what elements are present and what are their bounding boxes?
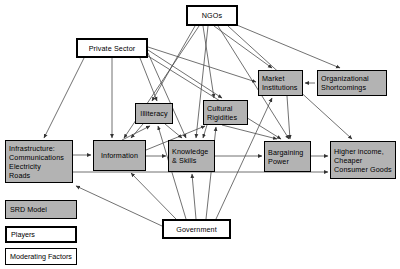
node-label-higher: Higher income, Cheaper Consumer Goods xyxy=(334,147,395,174)
diagram-canvas: NGOsPrivate SectorGovernmentMarket Insti… xyxy=(0,0,400,269)
edge-private-to-illiteracy xyxy=(140,58,157,101)
edge-private-to-cultural xyxy=(148,50,222,98)
edge-illiteracy-to-knowledge xyxy=(165,124,182,138)
node-private[interactable]: Private Sector xyxy=(76,38,148,58)
node-infrastructure[interactable]: Infrastructure: Communications Electrici… xyxy=(5,140,73,183)
edge-information-to-illiteracy xyxy=(122,126,150,140)
edge-ngos-to-market xyxy=(214,26,272,68)
node-bargaining[interactable]: Bargaining Power xyxy=(264,141,311,172)
node-label-market: Market Institutions xyxy=(262,74,302,92)
node-knowledge[interactable]: Knowledge & Skills xyxy=(168,140,215,172)
node-label-government: Government xyxy=(166,225,227,234)
legend-moderating-label: Moderating Factors xyxy=(10,252,72,261)
node-label-cultural: Cultural Rigidities xyxy=(207,104,247,122)
edge-private-to-market xyxy=(148,47,256,82)
edge-government-to-information xyxy=(131,173,176,219)
node-illiteracy[interactable]: Illiteracy xyxy=(135,103,173,124)
legend-moderating: Moderating Factors xyxy=(5,248,77,265)
legend-srd-label: SRD Model xyxy=(10,205,47,214)
legend-srd: SRD Model xyxy=(5,200,77,219)
node-higher[interactable]: Higher income, Cheaper Consumer Goods xyxy=(330,141,396,179)
edge-market-to-bargaining xyxy=(287,96,290,139)
node-label-information: Information xyxy=(96,151,143,160)
edge-illiteracy-to-information xyxy=(131,124,143,138)
node-organizational[interactable]: Organizational Shortcomings xyxy=(317,70,387,96)
legend-players: Players xyxy=(5,226,77,243)
node-label-organizational: Organizational Shortcomings xyxy=(321,74,386,92)
node-government[interactable]: Government xyxy=(162,219,231,239)
node-label-ngos: NGOs xyxy=(190,11,234,20)
edge-private-to-infrastructure xyxy=(44,58,84,138)
node-information[interactable]: Information xyxy=(93,140,146,171)
node-ngos[interactable]: NGOs xyxy=(186,5,238,26)
node-label-illiteracy: Illiteracy xyxy=(138,109,170,118)
edge-ngos-to-organizational xyxy=(232,23,340,68)
node-label-infrastructure: Infrastructure: Communications Electrici… xyxy=(9,144,72,180)
legend-players-label: Players xyxy=(11,230,35,239)
node-label-bargaining: Bargaining Power xyxy=(268,148,310,166)
node-label-knowledge: Knowledge & Skills xyxy=(172,147,214,165)
node-label-private: Private Sector xyxy=(80,44,144,53)
node-market[interactable]: Market Institutions xyxy=(258,70,303,96)
edge-cultural-to-bargaining xyxy=(222,125,277,139)
node-cultural[interactable]: Cultural Rigidities xyxy=(203,100,248,125)
edge-government-to-knowledge xyxy=(192,174,196,219)
